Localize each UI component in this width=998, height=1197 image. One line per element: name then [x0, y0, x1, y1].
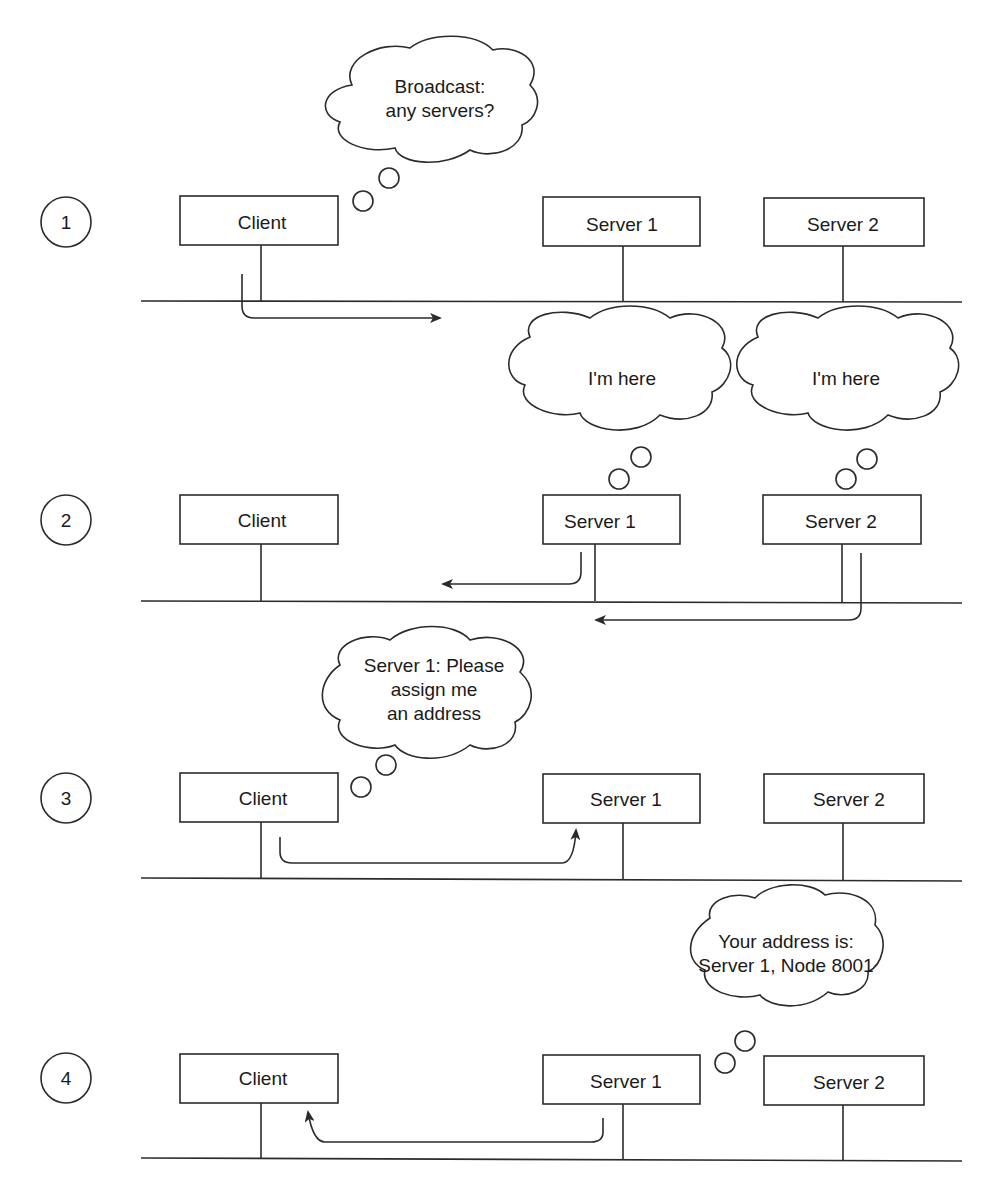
svg-text:Server 1: Please: Server 1: Please — [364, 655, 504, 676]
client-label: Client — [238, 212, 287, 233]
svg-text:Client: Client — [238, 510, 287, 531]
network-bus — [141, 301, 962, 302]
thought-bubble-broadcast: Broadcast: any servers? — [325, 36, 537, 211]
step-1: 1 Client Server 1 Server 2 Broadcast: an… — [41, 36, 962, 318]
svg-text:I'm here: I'm here — [588, 368, 656, 389]
svg-text:Server 1: Server 1 — [590, 1071, 662, 1092]
svg-text:an address: an address — [387, 703, 481, 724]
svg-text:assign me: assign me — [391, 679, 478, 700]
reply-arrow-server2 — [596, 553, 861, 620]
step-number: 3 — [61, 788, 72, 809]
broadcast-arrow — [242, 274, 440, 318]
step-2: 2 Client Server 1 Server 2 I'm here I'm … — [41, 306, 962, 620]
network-bus — [141, 878, 962, 881]
step-4: 4 Client Server 1 Server 2 Your address … — [41, 885, 962, 1161]
thought-bubble-request: Server 1: Please assign me an address — [322, 627, 531, 798]
svg-text:Client: Client — [239, 788, 288, 809]
svg-text:Broadcast:: Broadcast: — [395, 76, 486, 97]
step-number: 1 — [61, 212, 72, 233]
network-bus — [141, 601, 962, 603]
reply-address-arrow — [308, 1112, 603, 1142]
thought-bubble-server1: I'm here — [509, 306, 731, 489]
svg-text:Server 1: Server 1 — [590, 789, 662, 810]
thought-bubble-address: Your address is: Server 1, Node 8001 — [691, 885, 883, 1073]
svg-text:Client: Client — [239, 1068, 288, 1089]
svg-text:Server 1, Node 8001: Server 1, Node 8001 — [698, 955, 873, 976]
svg-text:Server 1: Server 1 — [564, 511, 636, 532]
server1-label: Server 1 — [586, 214, 658, 235]
svg-text:Your address is:: Your address is: — [718, 931, 854, 952]
svg-text:Server 2: Server 2 — [813, 789, 885, 810]
thought-bubble-server2: I'm here — [737, 306, 959, 489]
network-bus — [141, 1158, 962, 1161]
step-3: 3 Client Server 1 Server 2 Server 1: Ple… — [41, 627, 962, 882]
step-number: 4 — [61, 1068, 72, 1089]
step-number: 2 — [61, 510, 72, 531]
svg-text:I'm here: I'm here — [812, 368, 880, 389]
svg-text:any servers?: any servers? — [386, 100, 495, 121]
svg-text:Server 2: Server 2 — [813, 1072, 885, 1093]
server2-label: Server 2 — [807, 214, 879, 235]
request-arrow — [280, 830, 576, 863]
svg-text:Server 2: Server 2 — [805, 511, 877, 532]
reply-arrow-server1 — [443, 552, 581, 584]
